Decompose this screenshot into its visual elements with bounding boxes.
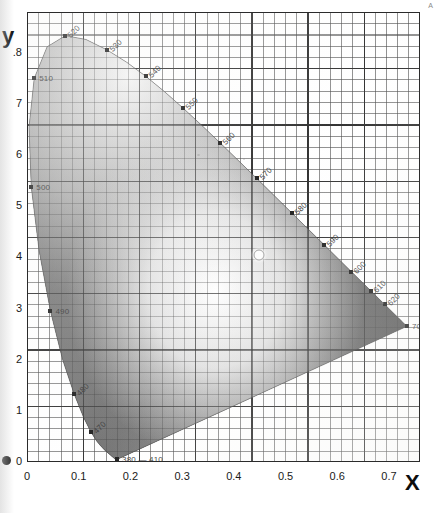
locus-point-marker: [29, 185, 33, 189]
locus-point-marker: [405, 324, 409, 328]
y-tick-label: 3: [0, 302, 22, 314]
scan-speck: [197, 154, 200, 156]
gamut-svg: [27, 12, 420, 462]
chromaticity-diagram-page: y X 01234567.8 00.10.20.30.40.50.60.7: [0, 0, 437, 513]
x-tick-label: 0.4: [221, 470, 247, 482]
x-tick-label: 0.1: [66, 470, 92, 482]
y-tick-label: 6: [0, 148, 22, 160]
x-axis-title: X: [405, 470, 419, 496]
x-tick-label: 0: [14, 470, 40, 482]
locus-wavelength-label: 510: [39, 74, 53, 83]
locus-point-marker: [115, 457, 119, 461]
locus-wavelength-label: 500: [36, 182, 50, 191]
x-tick-label: 0.2: [117, 470, 143, 482]
plot-area: 520530540550560570580590600610620700 — 7…: [27, 12, 420, 462]
locus-wavelength-label: 490: [55, 307, 69, 316]
locus-point-marker: [255, 176, 259, 180]
y-tick-label: 5: [0, 199, 22, 211]
y-tick-label: 2: [0, 353, 22, 365]
y-tick-label: 1: [0, 404, 22, 416]
locus-point-marker: [144, 74, 148, 78]
scan-speck: [382, 302, 384, 304]
y-axis-origin-nub: [2, 456, 11, 465]
white-point-marker: [254, 249, 265, 260]
x-tick-label: 0.6: [324, 470, 350, 482]
x-tick-label: 0.7: [376, 470, 402, 482]
y-tick-label: 4: [0, 250, 22, 262]
locus-point-marker: [32, 76, 36, 80]
corner-mark: A: [428, 2, 433, 9]
x-tick-label: 0.3: [169, 470, 195, 482]
chromaticity-gamut: [27, 12, 420, 462]
locus-point-marker: [48, 309, 52, 313]
locus-wavelength-label: 700 — 780: [412, 322, 420, 331]
y-tick-label: 7: [0, 97, 22, 109]
y-tick-label: .8: [0, 46, 22, 58]
x-tick-label: 0.5: [273, 470, 299, 482]
locus-wavelength-label: 380 — 410: [122, 455, 163, 462]
scan-speck: [243, 158, 245, 160]
